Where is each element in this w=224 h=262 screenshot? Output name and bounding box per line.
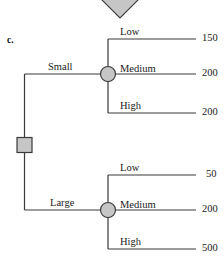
outcome-value-large-medium: 200 <box>202 204 218 215</box>
outcome-value-small-low: 150 <box>202 33 218 44</box>
outcome-label-small-high: High <box>120 101 141 112</box>
outcome-value-large-low: 50 <box>206 169 217 180</box>
outcome-value-large-high: 500 <box>202 243 218 254</box>
outcome-label-large-medium: Medium <box>120 200 156 211</box>
outcome-value-small-medium: 200 <box>202 68 218 79</box>
tree-graphics <box>0 0 224 262</box>
chance-node-large-shape <box>101 203 116 218</box>
outcome-label-small-medium: Medium <box>120 64 156 75</box>
outcome-label-small-low: Low <box>120 27 139 38</box>
branch-label-large: Large <box>50 198 74 209</box>
outcome-label-large-low: Low <box>120 163 139 174</box>
outcome-label-large-high: High <box>120 237 141 248</box>
chance-node-small-shape <box>101 67 116 82</box>
decision-tree-figure: c. Small Low Medium High 150 200 200 Lar… <box>0 0 224 262</box>
branch-label-small: Small <box>48 62 73 73</box>
terminal-diamond-shape <box>90 0 150 18</box>
part-label: c. <box>7 36 14 46</box>
decision-node-shape <box>17 138 32 153</box>
outcome-value-small-high: 200 <box>202 107 218 118</box>
